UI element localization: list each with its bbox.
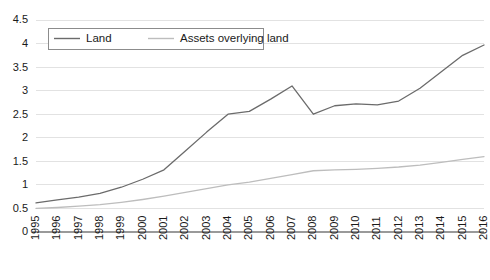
x-tick-label: 1999: [114, 216, 126, 240]
y-tick-label: 3: [22, 84, 28, 96]
x-axis-tick-labels: 1995199619971998199920002001200220032004…: [29, 216, 489, 240]
x-tick-label: 2013: [413, 216, 425, 240]
x-tick-label: 2016: [477, 216, 489, 240]
y-tick-label: 4: [22, 37, 28, 49]
series-line-land: [36, 45, 484, 203]
chart-canvas: 00.511.522.533.544.5 1995199619971998199…: [0, 0, 490, 280]
x-tick-label: 2001: [157, 216, 169, 240]
x-tick-label: 2004: [221, 216, 233, 240]
x-tick-label: 1997: [72, 216, 84, 240]
x-tick-label: 2008: [306, 216, 318, 240]
y-axis-tick-labels: 00.511.522.533.544.5: [13, 13, 28, 237]
x-tick-label: 2002: [178, 216, 190, 240]
x-tick-label: 2011: [370, 216, 382, 240]
legend-label-assets-overlying-land: Assets overlying land: [180, 32, 289, 44]
x-tick-label: 1995: [29, 216, 41, 240]
x-tick-label: 1998: [93, 216, 105, 240]
y-tick-label: 0.5: [13, 202, 28, 214]
x-tick-label: 2007: [285, 216, 297, 240]
x-tick-label: 2014: [434, 216, 446, 240]
data-series-group: [36, 45, 484, 208]
x-tick-label: 2009: [328, 216, 340, 240]
line-chart: 00.511.522.533.544.5 1995199619971998199…: [0, 0, 490, 280]
y-tick-label: 1.5: [13, 155, 28, 167]
x-tick-label: 2006: [264, 216, 276, 240]
chart-legend: LandAssets overlying land: [48, 28, 289, 49]
x-tick-label: 2000: [136, 216, 148, 240]
x-tick-label: 2015: [456, 216, 468, 240]
x-tick-label: 1996: [50, 216, 62, 240]
series-line-assets-overlying-land: [36, 157, 484, 209]
x-tick-label: 2003: [200, 216, 212, 240]
y-tick-label: 1: [22, 178, 28, 190]
x-tick-label: 2005: [242, 216, 254, 240]
legend-label-land: Land: [86, 32, 112, 44]
y-tick-label: 4.5: [13, 13, 28, 25]
x-tick-label: 2012: [392, 216, 404, 240]
y-tick-label: 2: [22, 131, 28, 143]
y-tick-label: 2.5: [13, 108, 28, 120]
y-tick-label: 0: [22, 225, 28, 237]
x-tick-label: 2010: [349, 216, 361, 240]
y-tick-label: 3.5: [13, 61, 28, 73]
